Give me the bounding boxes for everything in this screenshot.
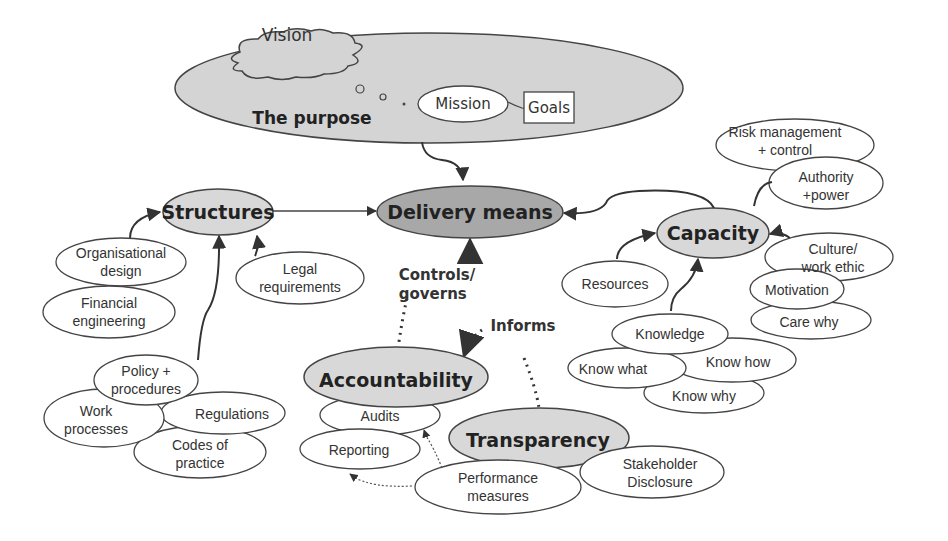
stakeholder-disclosure-label: Stakeholder Disclosure	[623, 455, 698, 491]
resources-label: Resources	[582, 275, 649, 293]
financial-engineering-label: Financial engineering	[72, 294, 145, 330]
know-how-label: Know how	[706, 353, 771, 371]
accountability-label: Accountability	[319, 371, 473, 389]
audits-label: Audits	[361, 407, 400, 425]
culture-label: Culture/ work ethic	[801, 240, 864, 276]
codes-of-practice-label: Codes of practice	[172, 436, 228, 472]
authority-power-label: Authority +power	[798, 168, 853, 204]
regulations-label: Regulations	[195, 405, 269, 423]
motivation-label: Motivation	[765, 281, 829, 299]
know-why-label: Know why	[672, 387, 736, 405]
transparency-label: Transparency	[466, 431, 610, 449]
reporting-label: Reporting	[329, 441, 390, 459]
capacity-label: Capacity	[667, 224, 759, 242]
knowledge-label: Knowledge	[635, 325, 704, 343]
structures-label: Structures	[161, 203, 274, 221]
goals-label: Goals	[528, 99, 570, 117]
vision-label: Vision	[262, 26, 313, 44]
know-what-label: Know what	[579, 360, 647, 378]
controls-governs-label: Controls/ governs	[399, 266, 475, 304]
work-processes-label: Work processes	[64, 402, 128, 438]
risk-management-label: Risk management + control	[729, 123, 842, 159]
policy-procedures-label: Policy + procedures	[111, 362, 181, 398]
performance-measures-label: Performance measures	[458, 469, 538, 505]
care-why-label: Care why	[779, 313, 838, 331]
purpose-title: The purpose	[252, 109, 371, 127]
mission-label: Mission	[435, 95, 491, 113]
delivery-means-label: Delivery means	[387, 203, 553, 221]
informs-label: Informs	[490, 317, 555, 336]
org-design-label: Organisational design	[76, 244, 166, 280]
legal-requirements-label: Legal requirements	[259, 260, 341, 296]
